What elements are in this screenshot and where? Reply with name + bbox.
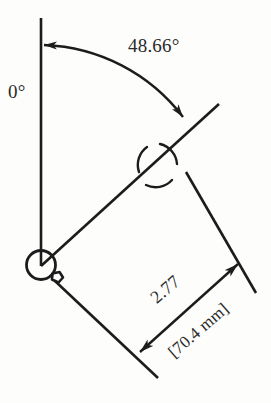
- perpendicular-intersection-marker: [138, 144, 177, 187]
- zero-degree-datum-label: 0°: [8, 82, 26, 101]
- lower-extension-line: [55, 281, 158, 378]
- drawing-geometry: [0, 0, 271, 403]
- angle-dimension-label: 48.66°: [128, 36, 180, 55]
- pivot-hinge-symbol: [27, 251, 64, 283]
- technical-drawing-canvas: 48.66° 0° 2.77 [70.4 mm]: [0, 0, 271, 403]
- right-extension-line: [186, 172, 256, 293]
- pivot-notch: [52, 272, 63, 283]
